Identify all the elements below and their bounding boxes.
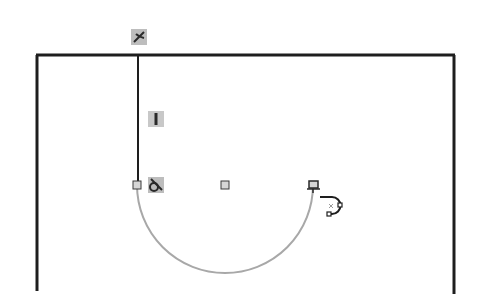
coincident-relation-icon[interactable] [131,29,147,45]
sketch-graphics[interactable] [0,0,485,304]
tangent-arc-preview [137,185,313,273]
arc-center-point[interactable] [221,181,229,189]
arc-start-point[interactable] [133,181,141,189]
vertical-relation-icon[interactable] [148,111,164,127]
tangent-relation-icon[interactable] [148,177,164,193]
arc-end-point[interactable] [307,181,320,193]
tangent-arc-cursor-icon [320,197,342,216]
sketch-canvas[interactable] [0,0,485,304]
